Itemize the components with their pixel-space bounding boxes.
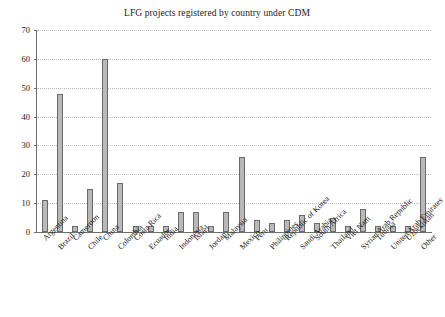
gridline <box>37 174 431 175</box>
gridline <box>37 203 431 204</box>
y-tick-mark <box>34 59 37 60</box>
bar[interactable] <box>57 94 63 233</box>
y-tick-label: 60 <box>0 54 30 64</box>
gridline <box>37 30 431 31</box>
x-tick-label: Other <box>419 232 438 251</box>
y-tick-mark <box>34 30 37 31</box>
gridline <box>37 59 431 60</box>
y-tick-mark <box>34 203 37 204</box>
y-tick-label: 40 <box>0 112 30 122</box>
chart-title: LFG projects registered by country under… <box>0 8 434 18</box>
gridline <box>37 117 431 118</box>
y-tick-label: 20 <box>0 169 30 179</box>
bar[interactable] <box>102 59 108 232</box>
y-tick-label: 70 <box>0 25 30 35</box>
y-tick-label: 0 <box>0 227 30 237</box>
y-tick-mark <box>34 145 37 146</box>
y-tick-mark <box>34 88 37 89</box>
bar[interactable] <box>42 200 48 232</box>
y-tick-mark <box>34 174 37 175</box>
y-tick-label: 10 <box>0 198 30 208</box>
gridline <box>37 145 431 146</box>
y-tick-label: 30 <box>0 140 30 150</box>
bar[interactable] <box>117 183 123 232</box>
plot-area <box>37 30 431 232</box>
gridline <box>37 88 431 89</box>
y-tick-label: 50 <box>0 83 30 93</box>
bar[interactable] <box>269 223 275 232</box>
y-tick-mark <box>34 117 37 118</box>
y-tick-mark <box>34 232 37 233</box>
